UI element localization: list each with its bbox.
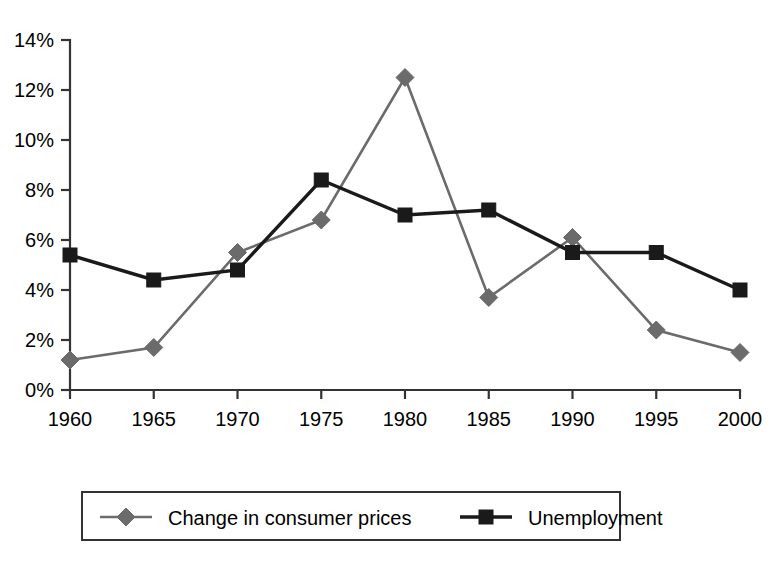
x-tick-label: 1960 xyxy=(48,408,93,430)
y-tick-label: 12% xyxy=(14,79,54,101)
y-tick-label: 14% xyxy=(14,29,54,51)
y-tick-label: 0% xyxy=(25,379,54,401)
data-point-marker xyxy=(482,203,496,217)
data-point-marker xyxy=(314,173,328,187)
x-tick-label: 1980 xyxy=(383,408,428,430)
chart-background xyxy=(0,0,784,571)
x-tick-label: 1990 xyxy=(550,408,595,430)
data-point-marker xyxy=(398,208,412,222)
y-tick-label: 10% xyxy=(14,129,54,151)
data-point-marker xyxy=(63,248,77,262)
y-tick-label: 8% xyxy=(25,179,54,201)
data-point-marker xyxy=(733,283,747,297)
legend-items: Change in consumer pricesUnemployment xyxy=(100,507,663,529)
chart-figure: 0%2%4%6%8%10%12%14% 19601965197019751980… xyxy=(0,0,784,571)
x-tick-label: 1970 xyxy=(215,408,260,430)
y-tick-label: 6% xyxy=(25,229,54,251)
x-tick-label: 1975 xyxy=(299,408,344,430)
square-marker-icon xyxy=(479,510,493,524)
legend-label: Unemployment xyxy=(528,507,663,529)
legend-label: Change in consumer prices xyxy=(168,507,411,529)
chart-legend: Change in consumer pricesUnemployment xyxy=(82,492,663,540)
x-axis-tick-labels: 196019651970197519801985199019952000 xyxy=(48,408,763,430)
data-point-marker xyxy=(147,273,161,287)
data-point-marker xyxy=(231,263,245,277)
y-tick-label: 2% xyxy=(25,329,54,351)
y-tick-label: 4% xyxy=(25,279,54,301)
x-tick-label: 2000 xyxy=(718,408,763,430)
line-chart-canvas: 0%2%4%6%8%10%12%14% 19601965197019751980… xyxy=(0,0,784,571)
data-point-marker xyxy=(649,246,663,260)
x-tick-label: 1965 xyxy=(132,408,177,430)
x-tick-label: 1995 xyxy=(634,408,679,430)
data-point-marker xyxy=(566,246,580,260)
x-tick-label: 1985 xyxy=(467,408,512,430)
